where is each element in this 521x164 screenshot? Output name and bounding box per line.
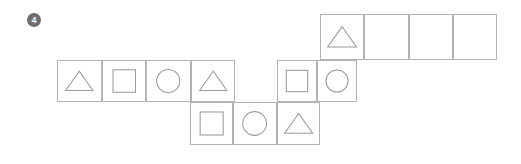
triangle-icon	[192, 61, 235, 101]
circle-icon	[318, 61, 356, 101]
grid-cell[interactable]	[277, 60, 317, 102]
grid-cell[interactable]	[190, 102, 233, 145]
grid-cell[interactable]	[277, 102, 320, 145]
grid-cell[interactable]	[191, 60, 236, 102]
grid-cell[interactable]	[317, 60, 357, 102]
grid-cell[interactable]	[409, 14, 453, 60]
square-icon	[278, 61, 316, 101]
grid-cell[interactable]	[146, 60, 191, 102]
exercise-number-marker: 4	[27, 13, 41, 27]
square-icon	[191, 103, 232, 144]
triangle-icon	[58, 61, 101, 101]
grid-cell[interactable]	[364, 14, 408, 60]
grid-cell[interactable]	[57, 60, 102, 102]
circle-icon	[234, 103, 275, 144]
triangle-icon	[278, 103, 319, 144]
circle-icon	[147, 61, 190, 101]
puzzle-canvas: 4	[0, 0, 521, 164]
grid-cell[interactable]	[453, 14, 497, 60]
square-icon	[103, 61, 146, 101]
grid-cell[interactable]	[233, 102, 276, 145]
triangle-icon	[321, 15, 363, 59]
grid-cell[interactable]	[102, 60, 147, 102]
grid-cell[interactable]	[320, 14, 364, 60]
